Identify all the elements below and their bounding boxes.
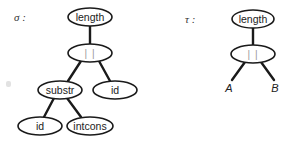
edge-substr-to-id bbox=[44, 98, 54, 117]
node-substr-label: substr bbox=[46, 84, 75, 96]
node-concat: | | bbox=[68, 44, 112, 62]
diagram-canvas: σ : length | | substr id id in bbox=[0, 0, 291, 145]
node-length-tau-label: length bbox=[239, 13, 268, 25]
leaf-A: A bbox=[224, 82, 232, 94]
node-concat-tau: | | bbox=[231, 45, 275, 63]
node-length: length bbox=[68, 8, 112, 26]
node-intcons: intcons bbox=[67, 117, 113, 135]
node-id-left-label: id bbox=[36, 120, 44, 132]
node-concat-label: | | bbox=[85, 48, 96, 59]
node-concat-tau-label: | | bbox=[248, 49, 259, 60]
node-length-tau: length bbox=[232, 10, 274, 28]
leaf-B: B bbox=[271, 82, 278, 94]
node-length-label: length bbox=[76, 11, 105, 23]
node-intcons-label: intcons bbox=[73, 120, 106, 132]
node-id-right: id bbox=[93, 81, 137, 99]
edge-concat-to-A bbox=[232, 62, 245, 80]
tree-sigma-label: σ : bbox=[14, 11, 26, 23]
edge-concat-to-B bbox=[261, 62, 274, 80]
scan-mark bbox=[6, 81, 11, 87]
edge-concat-to-id bbox=[99, 61, 110, 81]
tree-tau-label: τ : bbox=[185, 13, 195, 25]
tree-tau: τ : length | | A B bbox=[185, 10, 279, 94]
edge-concat-to-substr bbox=[68, 61, 81, 81]
node-substr: substr bbox=[38, 81, 82, 99]
node-id-right-label: id bbox=[111, 84, 119, 96]
tree-sigma: σ : length | | substr id id in bbox=[14, 8, 137, 135]
edge-substr-to-intcons bbox=[67, 98, 81, 117]
node-id-left: id bbox=[18, 117, 62, 135]
